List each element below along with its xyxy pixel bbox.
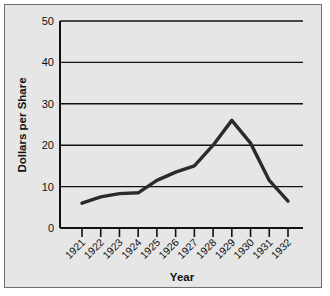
y-tick-label-50: 50 bbox=[42, 15, 54, 27]
y-axis-title: Dollars per Share bbox=[16, 77, 28, 172]
x-axis-title: Year bbox=[170, 271, 195, 283]
x-axis-ticks bbox=[82, 228, 288, 237]
y-tick-label-10: 10 bbox=[42, 181, 54, 193]
chart-canvas: 01020304050 1921192219231924192519261927… bbox=[0, 0, 330, 296]
x-tick-label-1930: 1930 bbox=[231, 236, 256, 261]
x-tick-label-1923: 1923 bbox=[100, 236, 125, 261]
x-tick-label-1931: 1931 bbox=[250, 236, 275, 261]
x-tick-label-1922: 1922 bbox=[81, 236, 106, 261]
y-tick-label-40: 40 bbox=[42, 56, 54, 68]
y-tick-label-20: 20 bbox=[42, 139, 54, 151]
x-tick-label-1921: 1921 bbox=[62, 236, 87, 261]
line-chart-svg: 01020304050 1921192219231924192519261927… bbox=[0, 0, 330, 296]
x-tick-label-1926: 1926 bbox=[156, 236, 181, 261]
x-tick-label-1924: 1924 bbox=[119, 236, 144, 261]
x-tick-label-1928: 1928 bbox=[194, 236, 219, 261]
x-tick-labels: 1921192219231924192519261927192819291930… bbox=[62, 236, 293, 261]
data-series-line bbox=[82, 120, 288, 203]
x-tick-label-1927: 1927 bbox=[175, 236, 200, 261]
y-tick-labels: 01020304050 bbox=[42, 15, 54, 234]
y-gridlines bbox=[60, 21, 303, 187]
y-tick-label-30: 30 bbox=[42, 98, 54, 110]
x-tick-label-1925: 1925 bbox=[137, 236, 162, 261]
y-tick-label-0: 0 bbox=[48, 222, 54, 234]
x-tick-label-1929: 1929 bbox=[212, 236, 237, 261]
x-tick-label-1932: 1932 bbox=[268, 236, 293, 261]
